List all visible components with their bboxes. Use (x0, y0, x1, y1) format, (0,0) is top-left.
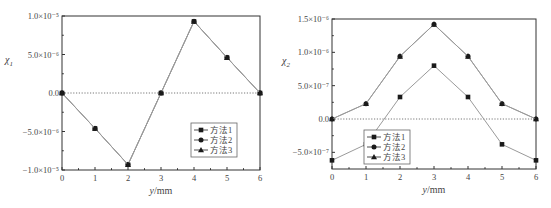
data-point (466, 95, 471, 100)
x-tick-label: 2 (398, 172, 402, 182)
x-tick-label: 4 (192, 173, 197, 183)
y-tick-label: 1.5×10⁻⁶ (298, 14, 329, 24)
x-tick-label: 1 (93, 173, 97, 183)
chart-chi2-canvas: 1.5×10⁻⁶1.0×10⁻⁶5.0×10⁻⁷0.0−5.0×10⁻⁷0123… (276, 0, 551, 208)
legend-marker-icon (372, 145, 377, 150)
data-point (500, 142, 505, 147)
legend-label: 方法1 (210, 125, 232, 135)
legend-marker-icon (199, 138, 204, 143)
chart-chi1-canvas: 1.0×10⁻⁵5.0×10⁻⁶0.0−5.0×10⁻⁶−1.0×10⁻⁵012… (0, 0, 276, 208)
legend-label: 方法1 (383, 132, 405, 142)
y-tick-label: −1.0×10⁻⁵ (23, 165, 59, 175)
legend-label: 方法2 (383, 142, 405, 152)
y-tick-label: 0.0 (48, 88, 59, 98)
x-axis-title: y/mm (422, 184, 446, 195)
y-tick-label: 5.0×10⁻⁷ (298, 81, 329, 91)
data-point (330, 158, 335, 163)
y-axis-title: χ1 (4, 54, 13, 68)
x-tick-label: 5 (500, 172, 504, 182)
legend: 方法1方法2方法3 (364, 130, 410, 164)
y-tick-label: 1.0×10⁻⁶ (298, 47, 329, 57)
legend-marker-icon (372, 135, 377, 140)
y-tick-label: −5.0×10⁻⁶ (23, 127, 59, 137)
y-tick-label: 5.0×10⁻⁶ (28, 50, 59, 60)
plot-frame (332, 19, 536, 169)
series-方法2 (330, 22, 539, 122)
x-tick-label: 0 (330, 172, 334, 182)
legend-label: 方法3 (383, 152, 405, 162)
legend-marker-icon (199, 128, 204, 133)
legend-label: 方法2 (210, 135, 232, 145)
x-tick-label: 3 (432, 172, 436, 182)
x-tick-label: 1 (364, 172, 368, 182)
data-point (534, 158, 539, 163)
data-point (432, 63, 437, 68)
y-axis-title: χ2 (281, 55, 290, 69)
series-方法3 (329, 21, 539, 121)
y-tick-label: 1.0×10⁻⁵ (28, 11, 59, 21)
series-方法1 (330, 63, 539, 162)
y-tick-label: −5.0×10⁻⁷ (293, 147, 329, 157)
chart-chi1: 1.0×10⁻⁵5.0×10⁻⁶0.0−5.0×10⁻⁶−1.0×10⁻⁵012… (0, 0, 276, 208)
x-tick-label: 5 (225, 173, 229, 183)
x-tick-label: 4 (466, 172, 471, 182)
y-tick-label: 0.0 (318, 114, 329, 124)
legend: 方法1方法2方法3 (191, 123, 237, 157)
x-tick-label: 3 (159, 173, 163, 183)
x-tick-label: 2 (126, 173, 130, 183)
chart-chi2: 1.5×10⁻⁶1.0×10⁻⁶5.0×10⁻⁷0.0−5.0×10⁻⁷0123… (276, 0, 551, 208)
x-tick-label: 0 (60, 173, 64, 183)
x-tick-label: 6 (258, 173, 262, 183)
legend-label: 方法3 (210, 145, 232, 155)
x-tick-label: 6 (534, 172, 538, 182)
x-axis-title: y/mm (149, 185, 173, 196)
data-point (398, 95, 403, 100)
